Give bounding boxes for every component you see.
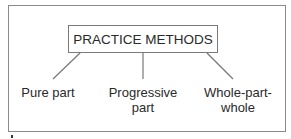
node-label-line2: whole: [198, 100, 278, 115]
node-whole-part-whole: Whole-part- whole: [198, 85, 278, 115]
node-pure-part: Pure part: [18, 85, 78, 100]
node-label-line2: part: [103, 100, 183, 115]
node-label: Pure part: [18, 85, 78, 100]
node-progressive-part: Progressive part: [103, 85, 183, 115]
corner-marker: [11, 135, 13, 138]
node-label-line1: Whole-part-: [198, 85, 278, 100]
node-label-line1: Progressive: [103, 85, 183, 100]
root-node: PRACTICE METHODS: [68, 25, 218, 53]
connector-lines: [0, 0, 291, 139]
root-label: PRACTICE METHODS: [73, 32, 213, 47]
